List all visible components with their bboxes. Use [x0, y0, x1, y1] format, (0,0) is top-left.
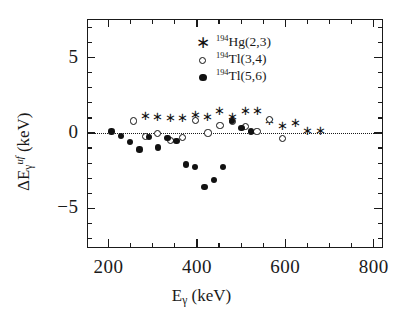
axis-tick [263, 19, 264, 24]
axis-tick [378, 238, 383, 239]
axis-tick [307, 243, 308, 248]
axis-tick [373, 19, 375, 28]
data-point-filled-circle [201, 184, 207, 190]
axis-tick [87, 223, 92, 224]
axis-tick [87, 132, 96, 134]
axis-tick [378, 117, 383, 118]
data-point-filled-circle [248, 128, 254, 134]
x-tick-label: 600 [255, 256, 315, 278]
axis-tick [87, 72, 92, 73]
data-point-star: ∗ [289, 116, 301, 128]
axis-tick [130, 19, 131, 24]
x-axis-title: Eγ (keV) [0, 286, 403, 307]
axis-tick [263, 243, 264, 248]
axis-tick [87, 238, 92, 239]
axis-tick [218, 243, 219, 248]
legend-label-tl-3-4: 194Tl(3,4) [216, 51, 266, 67]
data-point-star: ∗ [240, 104, 252, 116]
axis-tick [87, 117, 92, 118]
data-point-star: ∗ [202, 110, 214, 122]
star-icon: ∗ [196, 34, 210, 51]
axis-tick [218, 19, 219, 24]
legend-label-hg-2-3: 194Hg(2,3) [216, 34, 271, 50]
axis-tick [307, 19, 308, 24]
axis-tick [130, 243, 131, 248]
axis-tick [285, 19, 287, 28]
axis-tick [285, 239, 287, 248]
open-circle-icon [196, 51, 210, 68]
figure-scatter-plot: 20040060080050−5 ∗∗∗∗∗∗∗∗∗∗∗∗∗∗∗ ∗ 194Hg… [0, 0, 403, 323]
axis-tick [378, 102, 383, 103]
axis-tick [378, 178, 383, 179]
data-point-open-circle [192, 117, 199, 124]
data-point-filled-circle [146, 134, 152, 140]
data-point-open-circle [216, 122, 223, 129]
axis-tick [87, 147, 92, 148]
axis-tick [174, 19, 175, 24]
axis-tick [241, 19, 242, 24]
axis-tick [87, 57, 96, 59]
axis-tick [87, 102, 92, 103]
axis-tick [87, 87, 92, 88]
axis-tick [351, 243, 352, 248]
y-tick-label: −5 [39, 196, 79, 218]
axis-tick [374, 132, 383, 134]
y-tick-label: 0 [39, 121, 79, 143]
data-point-open-circle [204, 129, 211, 136]
axis-tick [87, 193, 92, 194]
axis-tick [378, 27, 383, 28]
axis-tick [87, 178, 92, 179]
data-point-open-circle [253, 128, 260, 135]
axis-tick [87, 27, 92, 28]
x-tick-label: 400 [167, 256, 227, 278]
axis-tick [108, 239, 110, 248]
y-axis-title: ΔEγuf (keV) [14, 112, 35, 191]
y-tick-label: 5 [39, 46, 79, 68]
data-point-filled-circle [238, 125, 244, 131]
axis-tick [351, 19, 352, 24]
data-point-open-circle [130, 117, 137, 124]
data-point-filled-circle [136, 146, 142, 152]
data-point-filled-circle [164, 135, 170, 141]
data-point-star: ∗ [315, 124, 327, 136]
data-point-star: ∗ [140, 109, 152, 121]
axis-tick [373, 239, 375, 248]
x-tick-label: 200 [79, 256, 139, 278]
x-tick-label: 800 [344, 256, 403, 278]
axis-tick [152, 19, 153, 24]
axis-tick [374, 57, 383, 59]
legend-label-tl-5-6: 194Tl(5,6) [216, 68, 266, 84]
axis-tick [378, 147, 383, 148]
data-point-star: ∗ [177, 111, 189, 123]
axis-tick [196, 239, 198, 248]
axis-tick [174, 243, 175, 248]
data-point-star: ∗ [251, 104, 263, 116]
zero-reference-line [88, 133, 382, 134]
axis-tick [108, 19, 110, 28]
axis-tick [329, 19, 330, 24]
data-point-star: ∗ [164, 111, 176, 123]
axis-tick [87, 208, 96, 210]
data-point-star: ∗ [152, 110, 164, 122]
data-point-filled-circle [183, 161, 189, 167]
data-point-star: ∗ [214, 104, 226, 116]
axis-tick [378, 223, 383, 224]
data-point-filled-circle [211, 177, 217, 183]
axis-tick [196, 19, 198, 28]
data-point-filled-circle [108, 128, 114, 134]
axis-tick [87, 163, 92, 164]
axis-tick [378, 87, 383, 88]
axis-tick [374, 208, 383, 210]
axis-tick [378, 193, 383, 194]
data-point-filled-circle [155, 144, 161, 150]
axis-tick [152, 243, 153, 248]
filled-circle-icon [196, 68, 210, 85]
axis-tick [241, 243, 242, 248]
axis-tick [378, 42, 383, 43]
data-point-star: ∗ [277, 119, 289, 131]
axis-tick [87, 42, 92, 43]
axis-tick [378, 72, 383, 73]
data-point-star: ∗ [302, 124, 314, 136]
axis-tick [329, 243, 330, 248]
axis-tick [378, 163, 383, 164]
